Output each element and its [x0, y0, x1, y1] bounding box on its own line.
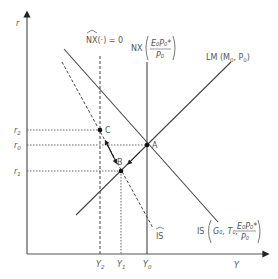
svg-text:Y0: Y0 — [143, 260, 152, 270]
svg-text:r2: r2 — [14, 126, 21, 136]
svg-text:NX(·) = 0: NX(·) = 0 — [86, 36, 123, 45]
svg-text:P₀: P₀ — [156, 51, 165, 60]
svg-text:IS: IS — [197, 227, 204, 236]
x-tick-labels: Y2 Y1 Y0 — [96, 260, 152, 270]
svg-text:Y2: Y2 — [96, 260, 105, 270]
svg-text:r0: r0 — [14, 141, 21, 151]
point-a — [145, 143, 150, 148]
lm-label: LM (M0, P0) — [206, 53, 250, 63]
guide-lines — [27, 130, 147, 254]
y-tick-labels: r2 r0 r1 — [14, 126, 21, 177]
svg-text:r1: r1 — [14, 167, 21, 177]
is-lm-nx-diagram: r Y A B C r2 r0 r1 Y2 Y1 Y0 LM (M0, P0 — [0, 0, 278, 279]
lm-curve — [76, 62, 231, 215]
svg-text:IS: IS — [156, 232, 163, 241]
point-b — [119, 169, 124, 174]
nx-label: NX E₀P₀* P₀ — [131, 36, 175, 60]
y-axis-label: r — [16, 19, 20, 28]
x-axis-label: Y — [234, 261, 240, 270]
svg-text:Y1: Y1 — [117, 260, 125, 270]
is-label: IS G₀, T₀, E₀P₀* P₀ — [197, 220, 260, 243]
is-curve — [64, 49, 218, 222]
is-hat-label: IS — [156, 227, 164, 241]
svg-text:E₀P₀*: E₀P₀* — [151, 39, 171, 48]
nx-hat-label: NX(·) = 0 — [86, 30, 123, 45]
svg-text:LM (M0, P0): LM (M0, P0) — [206, 53, 250, 63]
svg-text:P₀: P₀ — [241, 233, 250, 242]
point-c-label: C — [105, 126, 111, 135]
point-a-label: A — [152, 141, 158, 150]
point-c — [98, 128, 103, 133]
svg-text:NX: NX — [131, 44, 143, 53]
svg-text:E₀P₀*: E₀P₀* — [237, 222, 257, 231]
svg-text:G₀, T₀,: G₀, T₀, — [213, 227, 238, 236]
point-b-label: B — [117, 158, 123, 167]
